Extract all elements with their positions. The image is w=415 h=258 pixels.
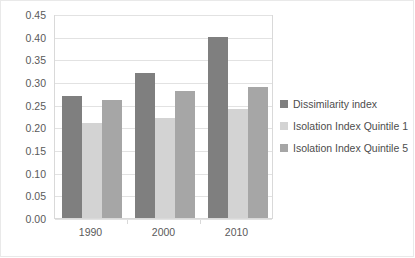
legend-label: Isolation Index Quintile 5 (293, 143, 408, 154)
legend-label: Isolation Index Quintile 1 (293, 121, 408, 132)
bar (102, 100, 122, 218)
y-tick-label: 0.15 (26, 146, 46, 157)
bar (155, 118, 175, 218)
bar (228, 109, 248, 218)
plot-area (54, 15, 273, 219)
y-tick-label: 0.35 (26, 55, 46, 66)
x-tick-label: 2000 (152, 226, 175, 238)
y-tick-label: 0.45 (26, 10, 46, 21)
y-axis-tick-labels: 0.000.050.100.150.200.250.300.350.400.45 (1, 15, 50, 219)
bar (208, 37, 228, 218)
x-tick-label: 2010 (225, 226, 248, 238)
bar-group (128, 16, 201, 218)
legend-item: Dissimilarity index (280, 98, 412, 110)
legend-label: Dissimilarity index (293, 99, 377, 110)
chart-figure: 0.000.050.100.150.200.250.300.350.400.45… (0, 0, 414, 257)
bar (82, 123, 102, 218)
bar (175, 91, 195, 218)
x-tick-mark (200, 220, 201, 224)
chart-legend: Dissimilarity indexIsolation Index Quint… (280, 98, 412, 164)
y-tick-label: 0.10 (26, 168, 46, 179)
y-tick-label: 0.30 (26, 78, 46, 89)
bar-group (55, 16, 128, 218)
legend-swatch-icon (280, 144, 288, 152)
y-tick-label: 0.20 (26, 123, 46, 134)
bar (62, 96, 82, 218)
legend-item: Isolation Index Quintile 1 (280, 120, 412, 132)
x-tick-mark (127, 220, 128, 224)
x-tick-label: 1990 (79, 226, 102, 238)
x-axis-tick-labels: 199020002010 (54, 220, 273, 242)
legend-item: Isolation Index Quintile 5 (280, 142, 412, 154)
bar (248, 87, 268, 218)
legend-swatch-icon (280, 122, 288, 130)
bar-group (201, 16, 274, 218)
bar-series-container (55, 16, 272, 218)
y-tick-label: 0.40 (26, 32, 46, 43)
y-tick-label: 0.05 (26, 191, 46, 202)
bar (135, 73, 155, 218)
legend-swatch-icon (280, 100, 288, 108)
y-tick-label: 0.00 (26, 214, 46, 225)
y-tick-label: 0.25 (26, 100, 46, 111)
